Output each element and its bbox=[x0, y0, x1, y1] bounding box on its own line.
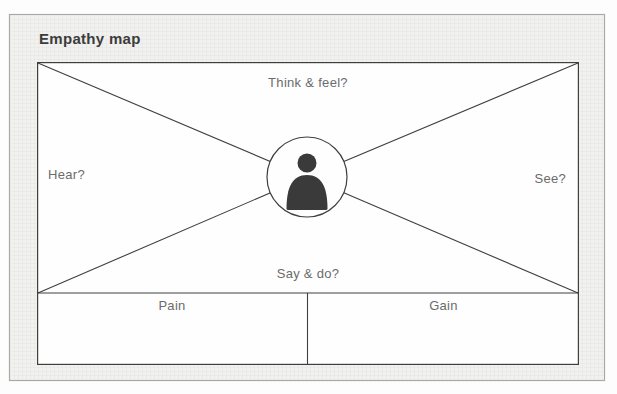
section-label-hear: Hear? bbox=[48, 167, 85, 182]
empathy-map-card: Empathy map bbox=[9, 14, 605, 381]
section-label-say-do: Say & do? bbox=[37, 266, 579, 281]
section-label-gain: Gain bbox=[308, 298, 579, 313]
section-label-see: See? bbox=[534, 171, 566, 186]
page-title: Empathy map bbox=[39, 30, 141, 47]
section-label-think-feel: Think & feel? bbox=[37, 75, 579, 90]
empathy-map-page: Empathy map bbox=[0, 0, 617, 394]
section-label-pain: Pain bbox=[37, 298, 307, 313]
empathy-map-diagram: Think & feel? Hear? See? Say & do? Pain … bbox=[37, 62, 579, 365]
diagram-canvas bbox=[37, 62, 579, 365]
